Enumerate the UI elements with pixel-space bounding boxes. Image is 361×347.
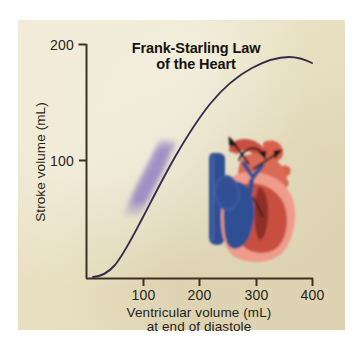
- xtick-label-300: 300: [245, 287, 269, 303]
- xtick-label-200: 200: [188, 287, 212, 303]
- figure-root: 200 100 100 200 300 400 Ventricular volu…: [0, 0, 361, 347]
- steep-region-highlight: [119, 139, 180, 219]
- y-axis-title: Stroke volume (mL): [33, 102, 48, 222]
- heart-cross-section-illustration: [208, 136, 294, 261]
- xtick-label-100: 100: [132, 287, 156, 303]
- xtick-label-400: 400: [301, 287, 325, 303]
- chart-title-line-1: Frank-Starling Law: [132, 40, 262, 56]
- ytick-label-200: 200: [50, 37, 74, 53]
- x-axis-title: Ventricular volume (mL): [127, 305, 272, 320]
- ytick-label-100: 100: [50, 153, 74, 169]
- chart-title-line-2: of the Heart: [156, 56, 236, 72]
- frank-starling-chart: 200 100 100 200 300 400 Ventricular volu…: [0, 0, 361, 347]
- x-axis-subtitle: at end of diastole: [147, 319, 252, 334]
